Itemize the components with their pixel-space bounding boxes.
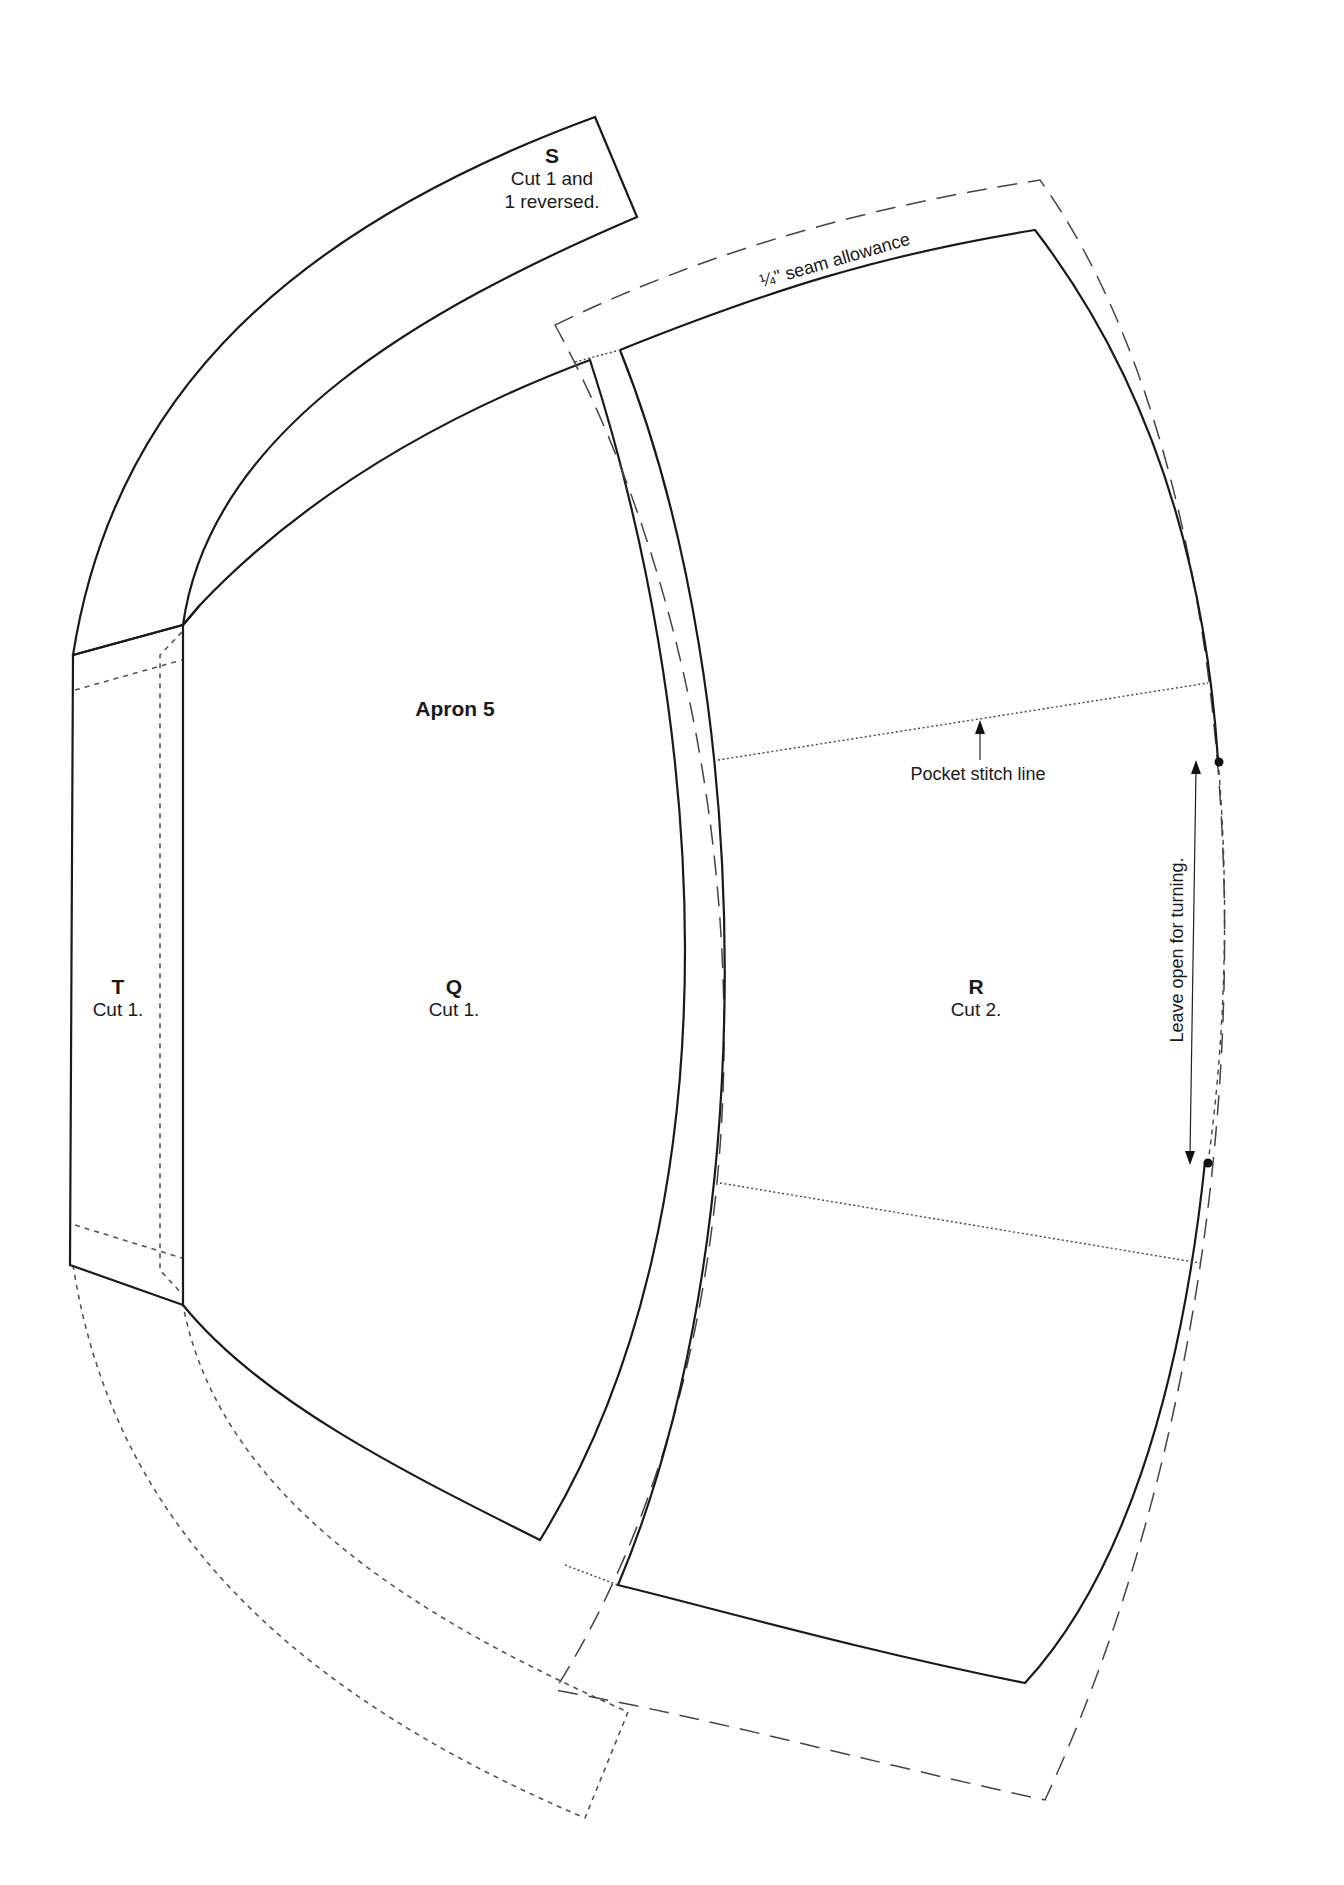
piece-q-label: Q Cut 1.	[429, 976, 480, 1021]
turning-opening-edge	[1208, 760, 1225, 1163]
piece-t-note: Cut 1.	[93, 998, 144, 1021]
piece-t-outline	[70, 625, 183, 1305]
pocket-stitch-line-bottom	[720, 1183, 1200, 1263]
piece-t-letter: T	[93, 976, 144, 998]
leave-open-arrow-line	[1190, 770, 1196, 1155]
r-corner-dash-bottom	[565, 1565, 618, 1585]
piece-s-note-line1: Cut 1 and	[504, 167, 599, 190]
opening-end-dot	[1204, 1159, 1213, 1168]
pocket-stitch-arrow-icon	[975, 720, 985, 734]
seam-allowance-outline	[555, 180, 1225, 1800]
piece-s-reversed-outline	[73, 1265, 628, 1818]
leave-open-arrow-bottom-icon	[1185, 1151, 1195, 1165]
piece-s-letter: S	[504, 145, 599, 167]
r-corner-dash-top	[575, 350, 620, 362]
piece-q-letter: Q	[429, 976, 480, 998]
piece-t-label: T Cut 1.	[93, 976, 144, 1021]
piece-q-outline	[183, 360, 685, 1540]
piece-t-fold-top	[75, 660, 182, 690]
piece-r-outline	[620, 230, 1218, 760]
piece-s-note-line2: 1 reversed.	[504, 190, 599, 213]
leave-open-text: Leave open for turning.	[1167, 857, 1187, 1042]
piece-s-label: S Cut 1 and 1 reversed.	[504, 145, 599, 213]
diagram-title: Apron 5	[415, 697, 494, 721]
pocket-stitch-line-top	[718, 683, 1208, 760]
leave-open-label: Leave open for turning.	[1167, 857, 1188, 1042]
opening-start-dot	[1215, 758, 1224, 767]
piece-t-fold-vertical	[160, 632, 182, 1294]
piece-q-note: Cut 1.	[429, 998, 480, 1021]
pocket-stitch-line-label: Pocket stitch line	[910, 764, 1045, 785]
piece-r-letter: R	[951, 976, 1002, 998]
piece-r-note: Cut 2.	[951, 998, 1002, 1021]
piece-r-label: R Cut 2.	[951, 976, 1002, 1021]
piece-r-outline-lower	[618, 350, 1205, 1683]
leave-open-arrow-top-icon	[1191, 760, 1201, 774]
apron-pattern-diagram	[0, 0, 1344, 1885]
piece-t-fold-bottom	[75, 1225, 182, 1258]
